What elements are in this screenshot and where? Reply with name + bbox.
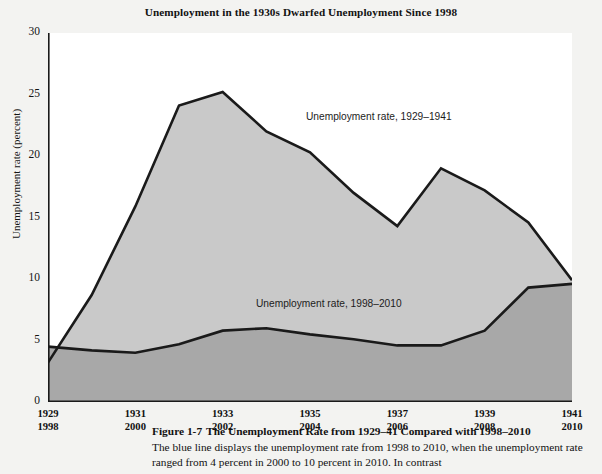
x-tick-label-top: 1929 [18, 407, 78, 420]
figure-number: Figure 1-7 [152, 425, 202, 437]
chart-figure: Unemployment rate, 1929–1941 Unemploymen… [0, 22, 602, 422]
chart-title: Unemployment in the 1930s Dwarfed Unempl… [0, 6, 602, 18]
y-tick-label: 0 [10, 394, 40, 406]
y-tick-label: 30 [10, 25, 40, 37]
x-tick-label-top: 1939 [455, 407, 515, 420]
y-tick-label: 10 [10, 271, 40, 283]
y-tick-label: 20 [10, 148, 40, 160]
caption-body: The blue line displays the unemployment … [152, 440, 596, 470]
chart-canvas [48, 33, 572, 402]
plot-area: Unemployment rate, 1929–1941 Unemploymen… [48, 33, 572, 402]
x-tick-label-pair: 19291998 [18, 407, 78, 433]
caption-headline: Figure 1-7The Unemployment Rate from 192… [152, 424, 596, 439]
y-tick-label: 5 [10, 333, 40, 345]
figure-caption: Figure 1-7The Unemployment Rate from 192… [152, 424, 596, 470]
x-tick-label-top: 1935 [280, 407, 340, 420]
x-tick-label-bottom: 1998 [18, 420, 78, 433]
caption-headline-text: The Unemployment Rate from 1929–41 Compa… [206, 425, 531, 437]
series-annotation-upper: Unemployment rate, 1929–1941 [306, 111, 452, 122]
y-tick-label: 15 [10, 210, 40, 222]
series-annotation-lower: Unemployment rate, 1998–2010 [256, 298, 402, 309]
x-tick-label-top: 1933 [193, 407, 253, 420]
y-tick-label: 25 [10, 87, 40, 99]
x-tick-label-top: 1937 [367, 407, 427, 420]
x-tick-label-top: 1931 [105, 407, 165, 420]
figure-page: Unemployment in the 1930s Dwarfed Unempl… [0, 0, 602, 474]
x-tick-label-top: 1941 [542, 407, 602, 420]
